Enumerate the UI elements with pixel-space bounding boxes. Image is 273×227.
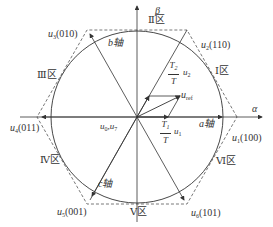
sector-V-label: Ⅴ区: [130, 207, 147, 217]
zero-vectors-label: u0,u7: [100, 121, 117, 134]
a-axis-label: a轴: [199, 119, 214, 129]
svpwm-diagram-canvas: [0, 0, 273, 227]
sector-III-label: Ⅲ区: [37, 70, 57, 80]
sector-I-label: Ⅰ区: [215, 66, 229, 76]
t2-vector-label: u2: [183, 67, 191, 80]
u3-label: u3(010): [48, 29, 78, 42]
u5-label: u5(001): [57, 207, 87, 220]
t1-over-t-fraction: T1 T: [160, 119, 171, 145]
u2-label: u2(110): [201, 40, 230, 53]
alpha-label: α: [252, 104, 257, 114]
u6-label: u6(101): [191, 208, 221, 221]
u1-label: u1(100): [232, 133, 262, 146]
t2-over-t-fraction: T2 T: [168, 60, 179, 86]
sector-IV-label: Ⅳ区: [40, 155, 60, 165]
sector-VI-label: Ⅵ区: [216, 156, 236, 166]
t1-vector-label: u1: [174, 126, 182, 139]
u4-label: u4(011): [10, 123, 39, 136]
c-axis-label: c轴: [98, 179, 112, 189]
uref-label: uref: [181, 90, 193, 103]
sector-II-label: Ⅱ区: [148, 15, 165, 25]
b-axis-label: b轴: [108, 38, 123, 48]
